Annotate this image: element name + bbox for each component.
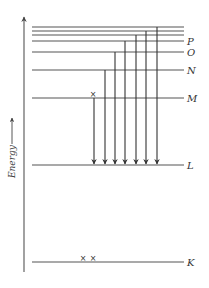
- level-label-N: N: [186, 65, 197, 76]
- energy-level-diagram: Energy KLMNOP ×××: [0, 0, 209, 288]
- vacancy-cross-icon: ×: [90, 90, 97, 99]
- level-label-M: M: [186, 93, 198, 104]
- level-label-P: P: [186, 36, 194, 47]
- transitions: [94, 27, 157, 164]
- energy-axis-label: Energy: [7, 118, 17, 179]
- vacancy-cross-icon: ×: [80, 254, 87, 263]
- energy-label-text: Energy: [7, 144, 17, 179]
- vacancy-cross-icon: ×: [90, 254, 97, 263]
- level-label-K: K: [186, 257, 195, 268]
- level-label-O: O: [187, 47, 195, 58]
- level-label-L: L: [186, 160, 194, 171]
